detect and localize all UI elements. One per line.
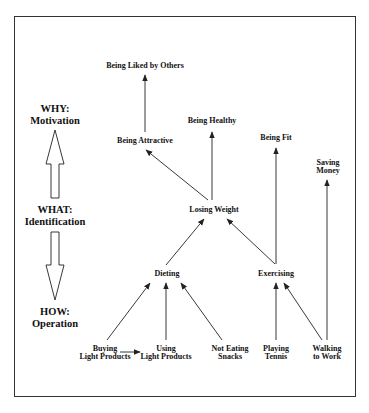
level-what: WHAT: Identification bbox=[25, 204, 86, 228]
level-what-subtitle: Identification bbox=[25, 216, 86, 228]
level-why-subtitle: Motivation bbox=[30, 115, 80, 127]
node-being-healthy: Being Healthy bbox=[188, 117, 237, 125]
node-saving-money: Saving Money bbox=[316, 159, 340, 175]
node-being-fit: Being Fit bbox=[260, 134, 291, 142]
node-being-liked: Being Liked by Others bbox=[106, 62, 184, 70]
node-using-light-products: Using Light Products bbox=[140, 345, 191, 361]
node-being-attractive: Being Attractive bbox=[117, 137, 173, 145]
node-label: Being Fit bbox=[260, 134, 291, 142]
node-label: Tennis bbox=[263, 353, 289, 361]
node-not-eating-snacks: Not Eating Snacks bbox=[211, 345, 248, 361]
down-hollow-arrow-icon bbox=[46, 232, 64, 300]
level-why-title: WHY: bbox=[30, 103, 80, 115]
node-dieting: Dieting bbox=[155, 270, 180, 278]
node-label: Being Healthy bbox=[188, 117, 237, 125]
node-label: to Work bbox=[313, 353, 342, 361]
node-label: Light Products bbox=[140, 353, 191, 361]
level-how-subtitle: Operation bbox=[32, 318, 78, 330]
node-label: Exercising bbox=[258, 270, 294, 278]
edge-exercising-to-losing bbox=[227, 219, 275, 264]
up-hollow-arrow-icon bbox=[46, 130, 64, 198]
level-why: WHY: Motivation bbox=[30, 103, 80, 127]
node-label: Light Products bbox=[79, 353, 130, 361]
level-how-title: HOW: bbox=[32, 306, 78, 318]
node-buying-light-products: Buying Light Products bbox=[79, 345, 130, 361]
edge-losing-to-attractive bbox=[146, 150, 208, 200]
node-playing-tennis: Playing Tennis bbox=[263, 345, 289, 361]
node-label: Being Liked by Others bbox=[106, 62, 184, 70]
node-losing-weight: Losing Weight bbox=[189, 206, 238, 214]
edge-notsnacks-to-dieting bbox=[181, 283, 222, 340]
level-what-title: WHAT: bbox=[25, 204, 86, 216]
node-label: Money bbox=[316, 167, 340, 175]
node-exercising: Exercising bbox=[258, 270, 294, 278]
node-label: Snacks bbox=[211, 353, 248, 361]
node-label: Being Attractive bbox=[117, 137, 173, 145]
node-walking-to-work: Walking to Work bbox=[313, 345, 342, 361]
node-label: Losing Weight bbox=[189, 206, 238, 214]
level-how: HOW: Operation bbox=[32, 306, 78, 330]
edge-walking-to-exercising bbox=[284, 283, 322, 340]
edge-dieting-to-losing bbox=[166, 219, 204, 265]
node-label: Dieting bbox=[155, 270, 180, 278]
edge-buying-to-dieting bbox=[107, 283, 150, 340]
